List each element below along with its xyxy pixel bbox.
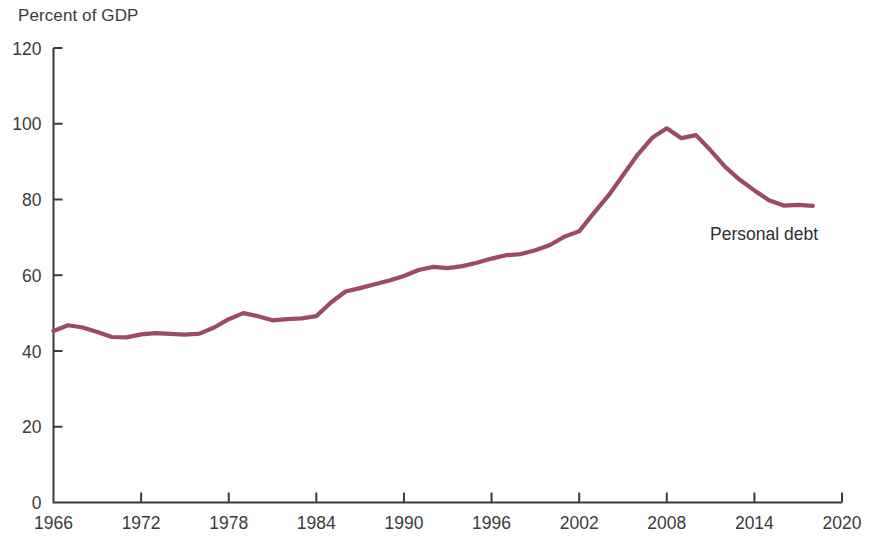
x-tick-label: 1978 — [209, 513, 248, 533]
y-axis-ticks: 020406080100120 — [12, 39, 62, 514]
chart-container: Percent of GDP 0204060801001201966197219… — [0, 0, 880, 543]
series-annotation-personal-debt: Personal debt — [710, 224, 818, 245]
y-tick-label: 80 — [22, 190, 42, 210]
y-tick-label: 60 — [22, 266, 42, 286]
axis-lines — [54, 48, 843, 503]
y-tick-label: 20 — [22, 417, 42, 437]
x-tick-label: 2014 — [735, 513, 774, 533]
x-tick-label: 2008 — [647, 513, 686, 533]
x-tick-label: 1966 — [34, 513, 73, 533]
y-tick-label: 0 — [32, 493, 42, 513]
line-chart-svg: 0204060801001201966197219781984199019962… — [0, 0, 880, 543]
x-tick-label: 1990 — [384, 513, 423, 533]
y-tick-label: 40 — [22, 342, 42, 362]
y-tick-label: 100 — [12, 114, 41, 134]
x-tick-label: 2002 — [560, 513, 599, 533]
y-tick-label: 120 — [12, 39, 41, 59]
x-tick-label: 1972 — [122, 513, 161, 533]
series-line-1 — [54, 128, 813, 337]
x-tick-label: 1996 — [472, 513, 511, 533]
x-axis-ticks: 1966197219781984199019962002200820142020 — [34, 493, 862, 533]
x-tick-label: 2020 — [823, 513, 862, 533]
x-tick-label: 1984 — [297, 513, 336, 533]
